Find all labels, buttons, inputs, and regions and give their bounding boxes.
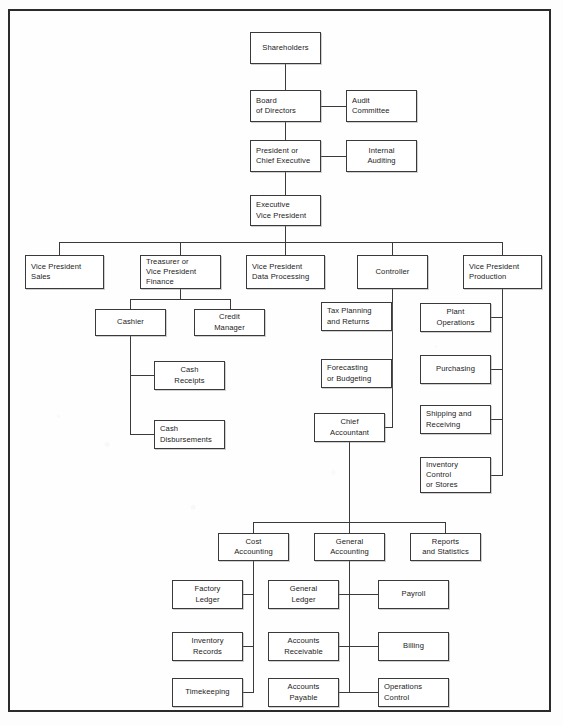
node-tax-planning[interactable]: Tax Planning and Returns: [321, 302, 392, 331]
node-label: Audit Committee: [352, 96, 416, 116]
node-operations-control[interactable]: Operations Control: [378, 678, 449, 707]
connector-cashier-spine: [130, 336, 131, 434]
node-president[interactable]: President or Chief Executive: [250, 140, 321, 172]
node-label: Billing: [379, 641, 448, 651]
connector-cost-factory-ledger: [243, 594, 254, 595]
node-label: Vice President Production: [469, 262, 541, 282]
node-cash-receipts[interactable]: Cash Receipts: [154, 361, 225, 390]
connector-ga-billing: [349, 646, 378, 647]
node-plant-operations[interactable]: Plant Operations: [420, 303, 491, 332]
connector-cost-inventory-records: [243, 646, 254, 647]
node-executive-vp[interactable]: Executive Vice President: [250, 195, 321, 226]
node-label: Cost Accounting: [219, 537, 288, 557]
connector-cost-accounting-spine: [253, 561, 254, 693]
node-label: Inventory Records: [173, 636, 242, 656]
node-cost-accounting[interactable]: Cost Accounting: [218, 533, 289, 561]
node-credit-manager[interactable]: Credit Manager: [194, 309, 265, 336]
connector-general-accounting-spine: [349, 561, 350, 693]
connector-cashier-cash-disb: [130, 434, 154, 435]
connector-ga-operations-control: [349, 692, 378, 693]
node-label: Chief Accountant: [315, 417, 384, 437]
connector-bus-cost-accounting: [253, 522, 254, 533]
node-forecasting[interactable]: Forecasting or Budgeting: [321, 359, 392, 388]
node-accounts-payable[interactable]: Accounts Payable: [268, 678, 339, 707]
node-factory-ledger[interactable]: Factory Ledger: [172, 580, 243, 609]
connector-bus-controller: [392, 242, 393, 255]
node-label: Payroll: [379, 589, 448, 599]
connector-cost-timekeeping: [243, 692, 254, 693]
connector-bus-reports: [445, 522, 446, 533]
connector-president-execvp: [285, 172, 286, 195]
connector-bus-treasurer: [180, 242, 181, 255]
node-label: Internal Auditing: [347, 146, 416, 166]
connector-production-plant: [491, 317, 503, 318]
node-general-accounting[interactable]: General Accounting: [314, 533, 385, 561]
connector-production-shipping: [491, 419, 503, 420]
connector-bus-vp-dp: [285, 242, 286, 255]
node-shareholders[interactable]: Shareholders: [250, 32, 321, 64]
node-label: Accounts Receivable: [269, 636, 338, 656]
node-label: Factory Ledger: [173, 584, 242, 604]
node-cashier[interactable]: Cashier: [95, 309, 166, 336]
node-timekeeping[interactable]: Timekeeping: [172, 678, 243, 707]
node-billing[interactable]: Billing: [378, 632, 449, 661]
connector-president-internal-audit: [321, 156, 346, 157]
connector-ga-payroll: [349, 594, 378, 595]
connector-treasurer-cashier: [130, 299, 131, 309]
node-board-of-directors[interactable]: Board of Directors: [250, 90, 321, 122]
node-inventory-records[interactable]: Inventory Records: [172, 632, 243, 661]
page-border-frame: Shareholders Board of Directors Audit Co…: [8, 9, 551, 712]
node-label: Purchasing: [421, 364, 490, 374]
node-label: Operations Control: [384, 682, 448, 702]
connector-bus-vp-production: [502, 242, 503, 255]
node-label: Executive Vice President: [256, 200, 320, 220]
node-label: Vice President Sales: [31, 262, 103, 282]
node-label: General Ledger: [269, 584, 338, 604]
connector-execvp-to-bus: [285, 226, 286, 243]
node-label: Cash Receipts: [155, 365, 224, 385]
connector-controller-spine: [392, 289, 393, 427]
node-label: Credit Manager: [195, 312, 264, 332]
node-label: Shareholders: [251, 43, 320, 53]
node-vp-sales[interactable]: Vice President Sales: [25, 255, 104, 289]
node-cash-disbursements[interactable]: Cash Disbursements: [154, 420, 225, 449]
connector-bus-general-accounting: [349, 522, 350, 533]
node-reports-statistics[interactable]: Reports and Statistics: [410, 533, 481, 561]
connector-treasurer-down: [180, 289, 181, 299]
org-chart-page: Shareholders Board of Directors Audit Co…: [0, 0, 563, 725]
node-general-ledger[interactable]: General Ledger: [268, 580, 339, 609]
node-treasurer[interactable]: Treasurer or Vice President Finance: [140, 255, 221, 289]
node-controller[interactable]: Controller: [357, 255, 428, 289]
node-chief-accountant[interactable]: Chief Accountant: [314, 413, 385, 442]
connector-bus-vp-sales: [59, 242, 60, 255]
connector-board-audit: [321, 106, 346, 107]
node-label: President or Chief Executive: [256, 146, 320, 166]
node-label: Inventory Control or Stores: [426, 460, 490, 490]
node-label: Timekeeping: [173, 687, 242, 697]
node-label: Cash Disbursements: [160, 424, 224, 444]
node-label: Tax Planning and Returns: [327, 306, 391, 326]
node-label: Vice President Data Processing: [252, 262, 324, 282]
connector-production-purchasing: [491, 369, 503, 370]
node-label: Plant Operations: [421, 307, 490, 327]
node-payroll[interactable]: Payroll: [378, 580, 449, 609]
node-purchasing[interactable]: Purchasing: [420, 355, 491, 384]
connector-shareholders-board: [285, 64, 286, 91]
node-label: Controller: [358, 267, 427, 277]
node-label: Treasurer or Vice President Finance: [146, 257, 220, 287]
node-label: Board of Directors: [256, 96, 320, 116]
node-vp-production[interactable]: Vice President Production: [463, 255, 542, 289]
node-inventory-control[interactable]: Inventory Control or Stores: [420, 457, 491, 493]
connector-chief-acct-down: [349, 438, 350, 522]
node-internal-auditing[interactable]: Internal Auditing: [346, 140, 417, 172]
node-audit-committee[interactable]: Audit Committee: [346, 90, 417, 122]
node-label: Reports and Statistics: [411, 537, 480, 557]
node-label: Shipping and Receiving: [426, 409, 490, 429]
node-label: General Accounting: [315, 537, 384, 557]
node-label: Accounts Payable: [269, 682, 338, 702]
node-accounts-receivable[interactable]: Accounts Receivable: [268, 632, 339, 661]
node-label: Forecasting or Budgeting: [327, 363, 391, 383]
node-vp-data-processing[interactable]: Vice President Data Processing: [246, 255, 325, 289]
node-shipping-receiving[interactable]: Shipping and Receiving: [420, 405, 491, 434]
connector-treasurer-bus: [130, 299, 230, 300]
